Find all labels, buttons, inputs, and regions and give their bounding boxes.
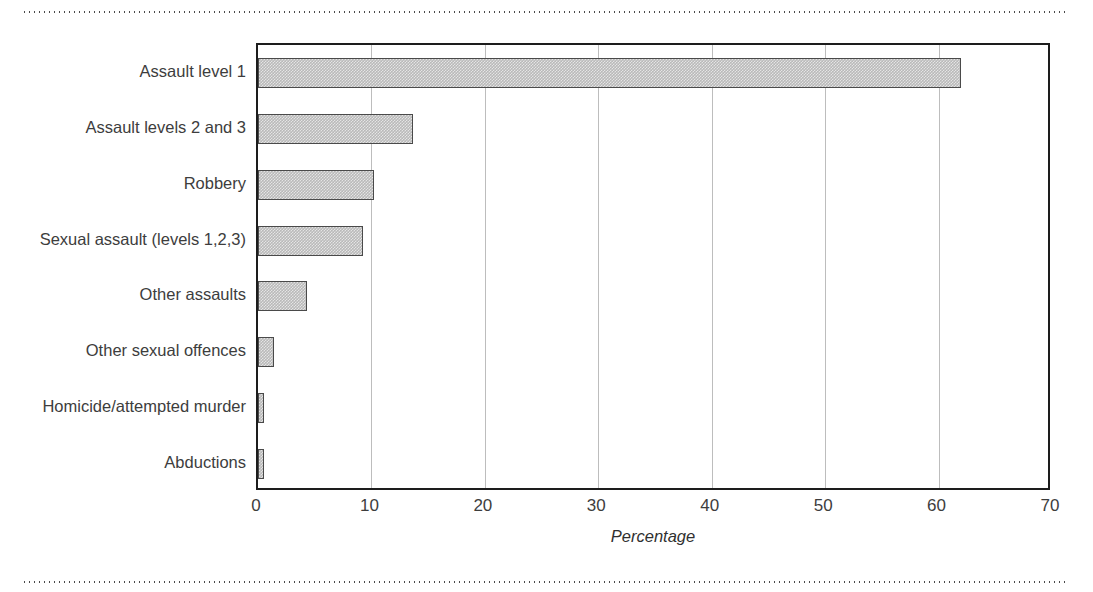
x-tick-label: 10 — [339, 496, 399, 516]
category-label: Assault level 1 — [10, 62, 246, 80]
x-tick-label: 20 — [453, 496, 513, 516]
x-tick-label: 40 — [680, 496, 740, 516]
bar — [258, 393, 264, 423]
bar — [258, 449, 264, 479]
bar-chart: Assault level 1Assault levels 2 and 3Rob… — [0, 0, 1093, 592]
category-label: Other assaults — [10, 285, 246, 303]
bar — [258, 58, 961, 88]
category-label: Other sexual offences — [10, 341, 246, 359]
bottom-dotted-rule — [22, 581, 1068, 583]
category-label: Homicide/attempted murder — [10, 397, 246, 415]
bar-series — [258, 45, 1048, 488]
bar — [258, 281, 307, 311]
plot-area — [256, 43, 1050, 490]
x-tick-label: 0 — [226, 496, 286, 516]
bar — [258, 170, 374, 200]
bar — [258, 114, 413, 144]
category-axis-labels: Assault level 1Assault levels 2 and 3Rob… — [0, 43, 246, 490]
x-tick-label: 50 — [793, 496, 853, 516]
category-label: Robbery — [10, 174, 246, 192]
bar — [258, 226, 363, 256]
bar — [258, 337, 274, 367]
x-tick-label: 30 — [566, 496, 626, 516]
x-tick-label: 60 — [907, 496, 967, 516]
category-label: Abductions — [10, 453, 246, 471]
x-tick-label: 70 — [1020, 496, 1080, 516]
category-label: Sexual assault (levels 1,2,3) — [10, 230, 246, 248]
x-axis-tick-labels: 010203040506070 — [256, 496, 1050, 522]
category-label: Assault levels 2 and 3 — [10, 118, 246, 136]
x-axis-title: Percentage — [256, 527, 1050, 546]
